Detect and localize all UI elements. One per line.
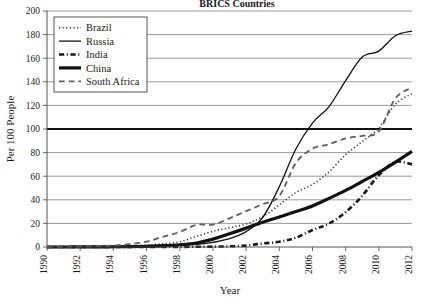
chart-figure: BRICS Countries 020406080100120140160180… xyxy=(0,0,422,299)
y-tick-label: 0 xyxy=(35,242,40,252)
x-tick-label: 2004 xyxy=(271,255,281,274)
x-tick-label: 2012 xyxy=(404,255,414,274)
y-tick-label: 140 xyxy=(26,77,41,87)
legend-label-china[interactable]: China xyxy=(86,63,111,74)
line-chart: BRICS Countries 020406080100120140160180… xyxy=(0,0,422,299)
legend-label-south-africa[interactable]: South Africa xyxy=(86,76,140,87)
x-tick-label: 1992 xyxy=(72,255,82,274)
y-tick-label: 40 xyxy=(31,195,41,205)
chart-title: BRICS Countries xyxy=(199,0,274,9)
y-axis-title: Per 100 People xyxy=(4,96,16,163)
x-tick-label: 1990 xyxy=(39,255,49,274)
x-tick-label: 2006 xyxy=(304,255,314,274)
y-tick-label: 200 xyxy=(26,6,41,16)
x-tick-label: 2002 xyxy=(238,255,248,274)
legend: BrazilRussiaIndiaChinaSouth Africa xyxy=(54,17,147,92)
x-tick-label: 1996 xyxy=(139,255,149,274)
y-tick-label: 100 xyxy=(26,124,41,134)
y-tick-label: 80 xyxy=(31,148,41,158)
y-tick-label: 120 xyxy=(26,101,41,111)
y-tick-label: 20 xyxy=(31,219,41,229)
y-tick-label: 180 xyxy=(26,30,41,40)
x-tick-label: 1994 xyxy=(105,255,115,274)
legend-label-russia[interactable]: Russia xyxy=(86,36,114,47)
legend-label-brazil[interactable]: Brazil xyxy=(86,22,112,33)
x-tick-label: 2008 xyxy=(338,255,348,274)
x-axis-title: Year xyxy=(220,284,241,296)
x-tick-label: 1998 xyxy=(172,255,182,274)
x-tick-label: 2000 xyxy=(205,255,215,274)
x-tick-label: 2010 xyxy=(371,255,381,274)
legend-label-india[interactable]: India xyxy=(86,49,108,60)
y-tick-label: 160 xyxy=(26,54,41,64)
y-tick-label: 60 xyxy=(31,172,41,182)
